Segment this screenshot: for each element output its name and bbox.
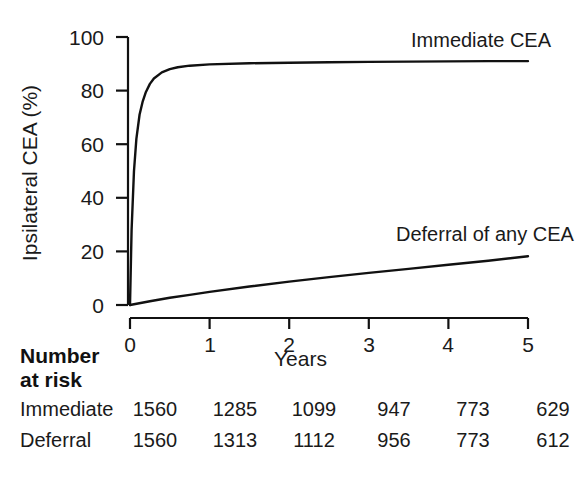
risk-cell: 1560 [127,427,183,453]
y-axis-title: Ipsilateral CEA (%) [19,38,41,308]
risk-row-label-deferral: Deferral [20,427,91,453]
y-tick-label-100: 100 [58,27,104,48]
number-at-risk-heading-line1: Number [20,344,99,367]
risk-cell: 956 [366,427,422,453]
risk-cell: 1099 [286,396,342,422]
risk-cell: 1560 [127,396,183,422]
plot-canvas [0,0,581,340]
table-row: Deferral 1560 1313 1112 956 773 612 [20,427,581,453]
number-at-risk-table: Number at risk Immediate 1560 1285 1099 … [20,340,581,480]
y-tick-label-0: 0 [58,295,104,316]
risk-cell: 773 [445,427,501,453]
y-axis-ticks [116,37,128,305]
risk-cell: 612 [525,427,581,453]
risk-cell: 1313 [207,427,263,453]
risk-cell: 947 [366,396,422,422]
series-annotation-immediate-cea: Immediate CEA [411,30,551,51]
risk-cell: 629 [525,396,581,422]
number-at-risk-heading: Number at risk [20,344,140,392]
y-tick-label-60: 60 [58,134,104,155]
y-tick-label-40: 40 [58,187,104,208]
x-axis-ticks [130,318,528,329]
risk-cell: 1285 [207,396,263,422]
number-at-risk-heading-line2: at risk [20,368,82,391]
series-line-deferral-of-any-cea [130,256,528,305]
series-annotation-deferral-of-any-cea: Deferral of any CEA [396,224,574,245]
series-line-immediate-cea [130,61,528,305]
y-tick-label-20: 20 [58,241,104,262]
risk-cell: 773 [445,396,501,422]
table-row: Immediate 1560 1285 1099 947 773 629 [20,396,581,422]
risk-cell: 1112 [286,427,342,453]
figure-root: 100 80 60 40 20 0 0 1 2 3 4 5 Ipsilatera… [0,0,581,480]
risk-row-label-immediate: Immediate [20,396,113,422]
plot-area: 100 80 60 40 20 0 0 1 2 3 4 5 Ipsilatera… [0,0,581,340]
y-tick-label-80: 80 [58,80,104,101]
